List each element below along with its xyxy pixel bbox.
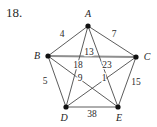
vertex-label-e: E [115, 112, 122, 123]
edge-weight-ce: 15 [131, 77, 141, 87]
edge-weight-cd: 1 [102, 73, 107, 83]
graph-figure: 18. 447713131818232355991115153838 ABCDE [0, 0, 157, 127]
edge-weight-ad: 18 [73, 60, 83, 70]
edge-weight-ac: 7 [112, 29, 117, 39]
edge-weight-be: 9 [78, 73, 83, 83]
graph-vertex-d [63, 104, 68, 109]
graph-vertex-e [115, 104, 120, 109]
vertex-label-d: D [59, 112, 68, 123]
edge-weight-ae: 23 [102, 60, 112, 70]
graph-vertex-b [45, 53, 50, 58]
edge-weight-bc: 13 [84, 47, 94, 57]
graph-edge-ab [48, 26, 88, 56]
vertex-label-a: A [84, 8, 92, 19]
graph-vertex-c [133, 54, 138, 59]
vertex-label-c: C [144, 51, 151, 62]
edge-weight-de: 38 [87, 109, 97, 119]
weighted-graph-diagram: 447713131818232355991115153838 ABCDE [0, 0, 157, 127]
graph-edge-weights-group: 447713131818232355991115153838 [43, 29, 141, 119]
graph-vertex-a [85, 23, 90, 28]
edge-weight-ab: 4 [60, 29, 65, 39]
edge-weight-bd: 5 [43, 76, 48, 86]
graph-edge-bd [48, 56, 66, 107]
vertex-label-b: B [34, 50, 40, 61]
